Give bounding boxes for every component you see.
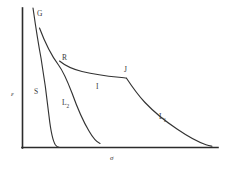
curve-s (33, 8, 59, 147)
curve-l2 (40, 28, 101, 144)
chart-figure: G R J S I L1 L2 ε σ (0, 0, 231, 172)
annotation-label-r: R (62, 54, 67, 62)
annotation-label-g: G (37, 10, 42, 18)
annotation-label-i: I (96, 83, 99, 91)
annotation-label-l1: L1 (159, 113, 166, 123)
annotation-label-l2-subscript: 2 (67, 103, 70, 109)
annotation-label-l2: L2 (62, 99, 69, 109)
annotation-label-l1-subscript: 1 (164, 117, 167, 123)
x-axis-title: σ (110, 155, 113, 162)
y-axis-title: ε (11, 91, 14, 98)
plot-area (0, 0, 231, 172)
annotation-label-s: S (34, 88, 38, 96)
curve-l1 (127, 78, 213, 146)
annotation-label-j: J (124, 66, 127, 74)
curve-rj-plateau (60, 61, 127, 78)
